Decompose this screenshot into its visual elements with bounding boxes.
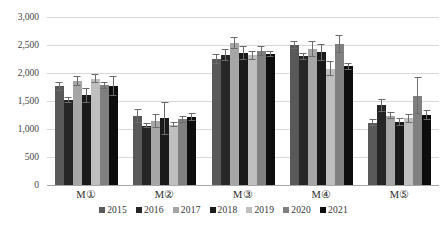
bar-slot bbox=[248, 17, 257, 185]
bar-slot bbox=[335, 17, 344, 185]
bar-slot bbox=[221, 17, 230, 185]
bar-slot bbox=[386, 17, 395, 185]
y-tick-label: 2,500 bbox=[18, 40, 39, 50]
bar-chart: 05001,0001,5002,0002,5003,000 M①M②M③M④M⑤… bbox=[0, 0, 447, 231]
legend-item[interactable]: 2019 bbox=[246, 205, 274, 215]
bar-slot bbox=[91, 17, 100, 185]
legend-item[interactable]: 2016 bbox=[136, 205, 164, 215]
bar[interactable] bbox=[335, 44, 344, 185]
y-tick-label: 500 bbox=[25, 152, 39, 162]
bar[interactable] bbox=[230, 43, 239, 185]
axis-line-zero bbox=[47, 185, 439, 186]
bar[interactable] bbox=[221, 55, 230, 185]
bar-slot bbox=[326, 17, 335, 185]
bar-group bbox=[47, 17, 125, 185]
chart-canvas: 05001,0001,5002,0002,5003,000 M①M②M③M④M⑤… bbox=[0, 0, 447, 231]
bar-slot bbox=[142, 17, 151, 185]
y-tick-label: 2,000 bbox=[18, 68, 39, 78]
legend-swatch-icon bbox=[173, 207, 179, 213]
y-tick-label: 0 bbox=[34, 180, 39, 190]
bar-slot bbox=[308, 17, 317, 185]
x-tick-label: M① bbox=[47, 188, 125, 200]
y-axis-labels: 05001,0001,5002,0002,5003,000 bbox=[0, 17, 43, 185]
legend-swatch-icon bbox=[283, 207, 289, 213]
bar[interactable] bbox=[413, 96, 422, 185]
bar[interactable] bbox=[160, 118, 169, 185]
legend-item[interactable]: 2018 bbox=[210, 205, 238, 215]
bar-slot bbox=[82, 17, 91, 185]
legend-swatch-icon bbox=[320, 207, 326, 213]
bar-slot bbox=[151, 17, 160, 185]
bar[interactable] bbox=[169, 125, 178, 185]
bar-slot bbox=[413, 17, 422, 185]
bar[interactable] bbox=[368, 123, 377, 185]
bar[interactable] bbox=[248, 55, 257, 185]
bar[interactable] bbox=[308, 49, 317, 185]
bar-slot bbox=[266, 17, 275, 185]
bar-slot bbox=[257, 17, 266, 185]
bar[interactable] bbox=[133, 116, 142, 185]
x-axis-labels: M①M②M③M④M⑤ bbox=[47, 188, 439, 200]
y-tick-label: 1,500 bbox=[18, 96, 39, 106]
legend-item[interactable]: 2015 bbox=[99, 205, 127, 215]
bar[interactable] bbox=[178, 119, 187, 185]
legend: 2015201620172018201920202021 bbox=[0, 205, 447, 215]
bar-slot bbox=[317, 17, 326, 185]
bar[interactable] bbox=[422, 115, 431, 185]
x-tick-label: M④ bbox=[282, 188, 360, 200]
bar-slot bbox=[100, 17, 109, 185]
bar-slot bbox=[230, 17, 239, 185]
bar[interactable] bbox=[73, 81, 82, 185]
bar-slot bbox=[160, 17, 169, 185]
legend-label: 2020 bbox=[291, 205, 311, 215]
x-tick-label: M② bbox=[125, 188, 203, 200]
bar-slot bbox=[212, 17, 221, 185]
legend-item[interactable]: 2021 bbox=[320, 205, 348, 215]
bar[interactable] bbox=[326, 69, 335, 185]
bar-slot bbox=[73, 17, 82, 185]
bar-slot bbox=[187, 17, 196, 185]
bar-slot bbox=[299, 17, 308, 185]
bar[interactable] bbox=[212, 59, 221, 185]
bar-slot bbox=[109, 17, 118, 185]
legend-label: 2017 bbox=[181, 205, 201, 215]
bar[interactable] bbox=[91, 79, 100, 185]
legend-item[interactable]: 2020 bbox=[283, 205, 311, 215]
bar[interactable] bbox=[82, 95, 91, 185]
legend-swatch-icon bbox=[136, 207, 142, 213]
bar[interactable] bbox=[55, 86, 64, 185]
bar[interactable] bbox=[290, 45, 299, 185]
bar[interactable] bbox=[257, 51, 266, 185]
bar[interactable] bbox=[64, 100, 73, 185]
bar[interactable] bbox=[266, 54, 275, 185]
y-tick-label: 1,000 bbox=[18, 124, 39, 134]
bar[interactable] bbox=[344, 66, 353, 185]
bar-slot bbox=[64, 17, 73, 185]
x-tick-label: M③ bbox=[204, 188, 282, 200]
bar-group bbox=[125, 17, 203, 185]
bar[interactable] bbox=[151, 121, 160, 185]
bar[interactable] bbox=[299, 56, 308, 185]
bar[interactable] bbox=[395, 122, 404, 185]
legend-label: 2019 bbox=[254, 205, 274, 215]
bar-slot bbox=[377, 17, 386, 185]
bar[interactable] bbox=[239, 53, 248, 185]
bar[interactable] bbox=[404, 118, 413, 185]
legend-label: 2016 bbox=[144, 205, 164, 215]
legend-item[interactable]: 2017 bbox=[173, 205, 201, 215]
legend-swatch-icon bbox=[246, 207, 252, 213]
x-tick-label: M⑤ bbox=[361, 188, 439, 200]
bar[interactable] bbox=[187, 117, 196, 185]
legend-label: 2015 bbox=[107, 205, 127, 215]
legend-swatch-icon bbox=[99, 207, 105, 213]
bar-group bbox=[204, 17, 282, 185]
bar[interactable] bbox=[109, 86, 118, 185]
bar[interactable] bbox=[142, 126, 151, 185]
bar[interactable] bbox=[100, 85, 109, 185]
bar[interactable] bbox=[317, 52, 326, 185]
bar-slot bbox=[368, 17, 377, 185]
bar[interactable] bbox=[386, 116, 395, 185]
bar-slot bbox=[395, 17, 404, 185]
bar[interactable] bbox=[377, 105, 386, 185]
bar-group bbox=[361, 17, 439, 185]
